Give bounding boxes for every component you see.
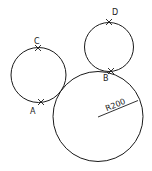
radius-dimension-label: R200 (104, 97, 127, 113)
large-circle (53, 72, 143, 162)
top-right-circle (85, 23, 134, 72)
left-circle (11, 48, 66, 103)
point-label-a: A (30, 107, 36, 116)
tangent-circles-diagram: ABCD R200 (0, 0, 152, 171)
point-label-d: D (112, 8, 118, 17)
point-label-b: B (103, 74, 109, 83)
point-markers: ABCD (30, 8, 118, 116)
point-label-c: C (34, 37, 40, 46)
